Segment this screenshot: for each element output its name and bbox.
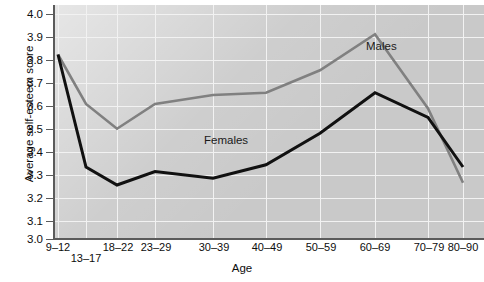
gridline-vertical [213,5,214,239]
plot-area [54,5,484,239]
y-tick-mark [46,129,53,130]
y-tick-mark [46,239,53,240]
x-axis-title: Age [0,262,484,274]
y-tick-label: 3.1 [0,215,43,227]
gridline-horizontal [54,129,484,130]
x-tick-label-18-22: 18–22 [103,241,134,253]
chart-figure: 4.0 3.9 3.8 3.7 3.6 3.5 3.4 3.3 3.2 3.1 … [0,0,484,282]
x-tick-label-60-69: 60–69 [360,241,391,253]
gridline-horizontal [54,198,484,199]
y-tick-label: 3.6 [0,100,43,112]
y-tick-mark [46,175,53,176]
gridline-vertical [117,5,118,239]
x-tick-label-70-79: 70–79 [414,241,445,253]
y-tick-label: 3.4 [0,146,43,158]
x-tick-label-30-39: 30–39 [199,241,230,253]
y-tick-mark [46,83,53,84]
x-tick-label-50-59: 50–59 [306,241,337,253]
y-tick-label: 3.0 [0,233,43,245]
gridline-vertical [463,5,464,239]
gridline-vertical [58,5,59,239]
gridline-vertical [428,5,429,239]
x-tick-label-80-90: 80–90 [448,241,479,253]
gridline-horizontal [54,106,484,107]
gridline-horizontal [54,221,484,222]
series-label-males: Males [366,40,397,52]
y-tick-mark [46,221,53,222]
y-tick-label: 4.0 [0,8,43,20]
x-tick-label-9-12: 9–12 [46,241,70,253]
y-axis-line [53,5,55,240]
gridline-horizontal [54,60,484,61]
gridline-horizontal [54,83,484,84]
y-tick-mark [46,60,53,61]
x-tick-label-40-49: 40–49 [252,241,283,253]
gridline-vertical [320,5,321,239]
y-axis-title: Average self-esteem score [23,0,35,229]
y-tick-labels: 4.0 3.9 3.8 3.7 3.6 3.5 3.4 3.3 3.2 3.1 … [0,0,44,282]
gridline-horizontal [54,37,484,38]
gridline-horizontal [54,152,484,153]
gridline-horizontal [54,14,484,15]
y-tick-label: 3.5 [0,123,43,135]
y-tick-label: 3.8 [0,54,43,66]
y-tick-label: 3.2 [0,192,43,204]
y-tick-label: 3.7 [0,77,43,89]
x-tick-label-23-29: 23–29 [141,241,172,253]
gridline-vertical [86,5,87,239]
series-label-females: Females [204,134,248,146]
gridline-horizontal [54,175,484,176]
x-axis-line [53,238,484,240]
y-tick-mark [46,198,53,199]
y-tick-mark [46,37,53,38]
y-tick-mark [46,14,53,15]
y-tick-label: 3.3 [0,169,43,181]
gridline-vertical [155,5,156,239]
gridline-vertical [266,5,267,239]
y-tick-mark [46,152,53,153]
y-tick-label: 3.9 [0,31,43,43]
y-tick-mark [46,106,53,107]
